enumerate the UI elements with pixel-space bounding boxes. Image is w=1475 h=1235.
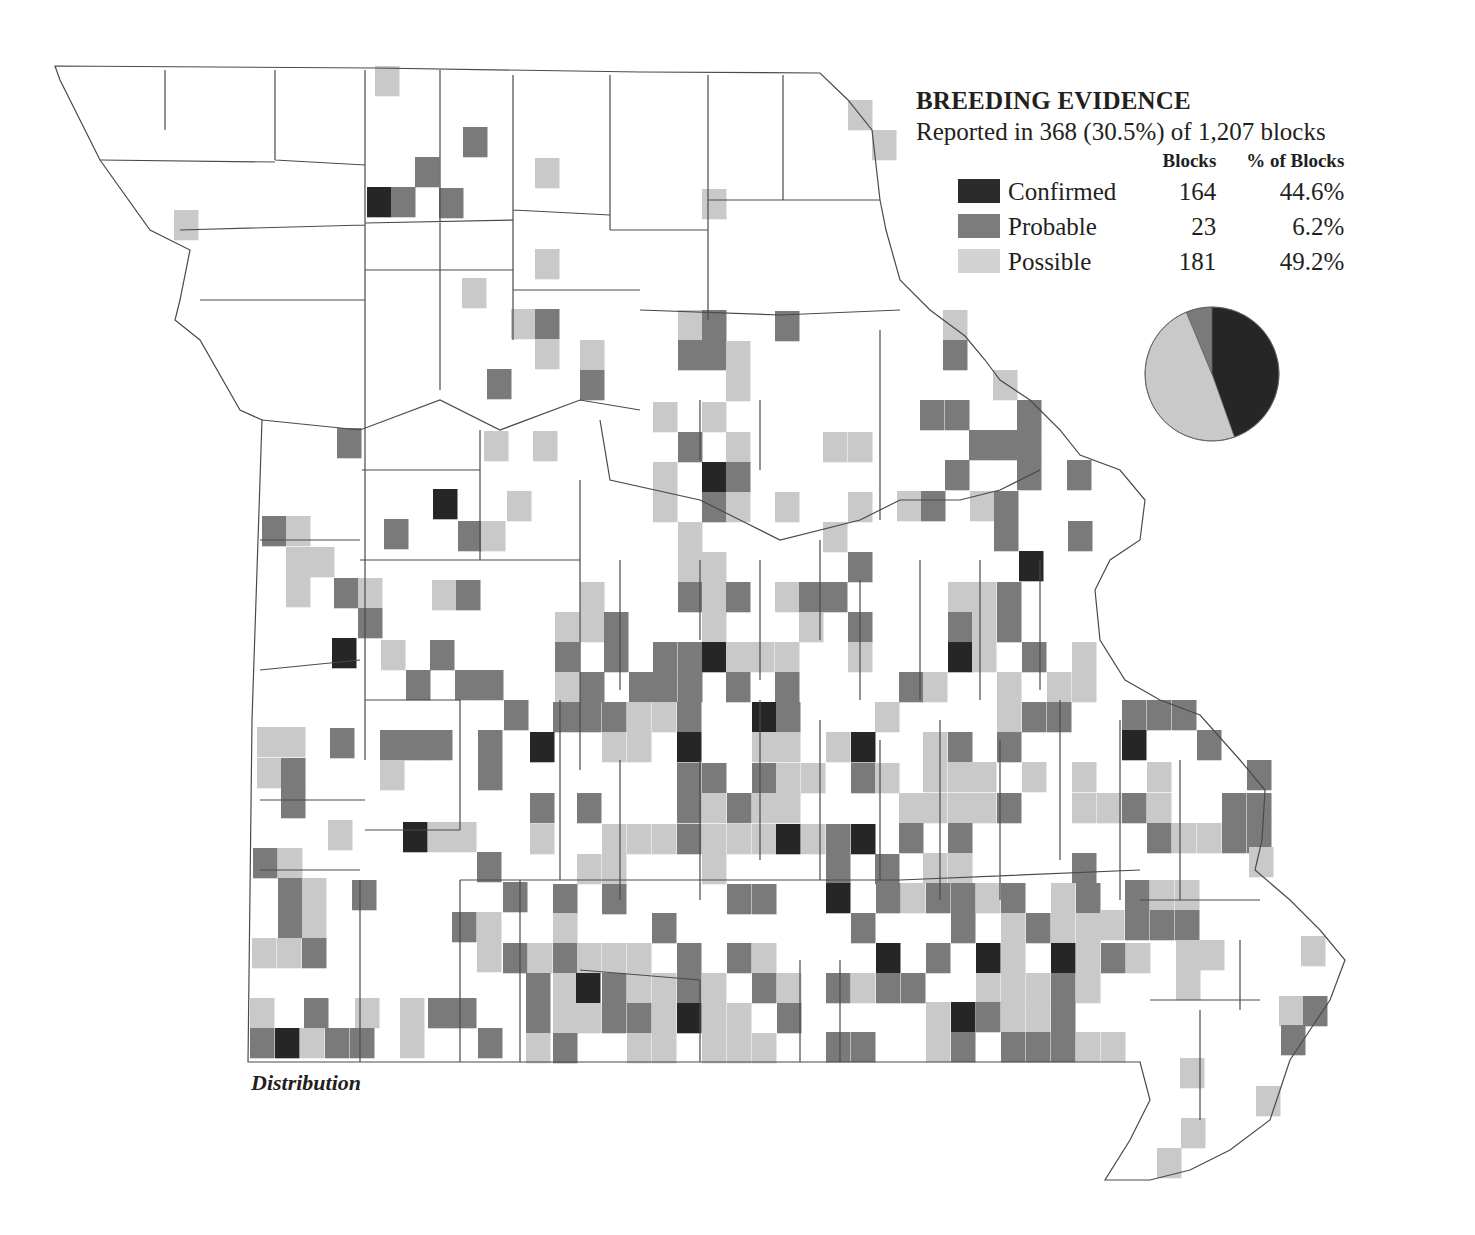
atlas-block [727,1033,752,1063]
atlas-block [921,491,946,521]
atlas-block [580,582,605,612]
legend-label: Possible [1008,248,1091,275]
atlas-block [702,582,727,612]
atlas-block [350,1028,375,1058]
legend-subtitle: Reported in 368 (30.5%) of 1,207 blocks [916,116,1436,148]
atlas-block [677,763,702,793]
atlas-block [262,516,287,546]
atlas-block [653,402,678,432]
atlas-block [775,582,800,612]
atlas-block [678,672,703,702]
atlas-block [677,1003,702,1033]
atlas-block [923,672,948,702]
atlas-block [653,642,678,672]
atlas-block [629,672,654,702]
atlas-block [851,732,876,762]
atlas-block [481,521,506,551]
atlas-block [948,612,973,642]
atlas-block [945,460,970,490]
atlas-block [702,402,727,432]
atlas-block [278,908,303,938]
atlas-block [332,638,357,668]
atlas-block [530,732,555,762]
atlas-block [381,640,406,670]
atlas-block [875,763,900,793]
atlas-block [1176,940,1201,970]
atlas-block [976,1002,1001,1032]
atlas-block [1022,702,1047,732]
atlas-block [478,730,503,760]
atlas-block [1200,940,1225,970]
atlas-block [375,66,400,96]
atlas-block [478,1028,503,1058]
atlas-block [1150,880,1175,910]
atlas-block [777,1003,802,1033]
atlas-block [511,309,536,339]
atlas-block [304,998,329,1028]
atlas-block [752,702,777,732]
atlas-block [1122,730,1147,760]
atlas-block [602,702,627,732]
atlas-block [1101,1032,1126,1062]
atlas-block [851,824,876,854]
atlas-block [1147,700,1172,730]
atlas-block [678,432,703,462]
legend-pct: 44.6% [1216,174,1344,209]
atlas-block [526,973,551,1003]
atlas-block [406,670,431,700]
atlas-block [530,824,555,854]
atlas-block [627,702,652,732]
atlas-block [702,1003,727,1033]
atlas-block [286,547,311,577]
atlas-block [503,882,528,912]
atlas-block [702,552,727,582]
atlas-block [1051,913,1076,943]
atlas-block [752,824,777,854]
atlas-block [976,943,1001,973]
atlas-block [391,187,416,217]
atlas-block [478,760,503,790]
atlas-block [702,612,727,642]
atlas-block [250,1028,275,1058]
atlas-block [1001,1002,1026,1032]
atlas-block [702,1033,727,1063]
atlas-block [1051,1032,1076,1062]
atlas-block [775,492,800,522]
atlas-block [652,1033,677,1063]
atlas-block [479,670,504,700]
atlas-block [577,702,602,732]
atlas-block [1076,973,1101,1003]
atlas-block [1100,910,1125,940]
atlas-block [876,973,901,1003]
atlas-block [826,1032,851,1062]
atlas-block [997,793,1022,823]
atlas-block [528,943,553,973]
atlas-block [976,883,1001,913]
atlas-block [1026,1032,1051,1062]
atlas-block [602,973,627,1003]
atlas-block [678,552,703,582]
atlas-block [577,943,602,973]
atlas-block [1001,943,1026,973]
atlas-block [1097,793,1122,823]
atlas-block [702,642,727,672]
atlas-block [463,127,488,157]
atlas-block [923,762,948,792]
atlas-block [677,732,702,762]
atlas-block [555,672,580,702]
atlas-block [951,1002,976,1032]
atlas-block [752,763,777,793]
atlas-block [1122,700,1147,730]
atlas-block [352,880,377,910]
atlas-block [535,339,560,369]
atlas-block [752,1033,777,1063]
atlas-block [899,823,924,853]
atlas-block [997,702,1022,732]
atlas-block [1022,762,1047,792]
atlas-block [535,249,560,279]
legend-blocks: 23 [1116,209,1216,244]
atlas-block [951,883,976,913]
atlas-block [358,608,383,638]
atlas-block [1247,793,1272,823]
atlas-block [920,400,945,430]
